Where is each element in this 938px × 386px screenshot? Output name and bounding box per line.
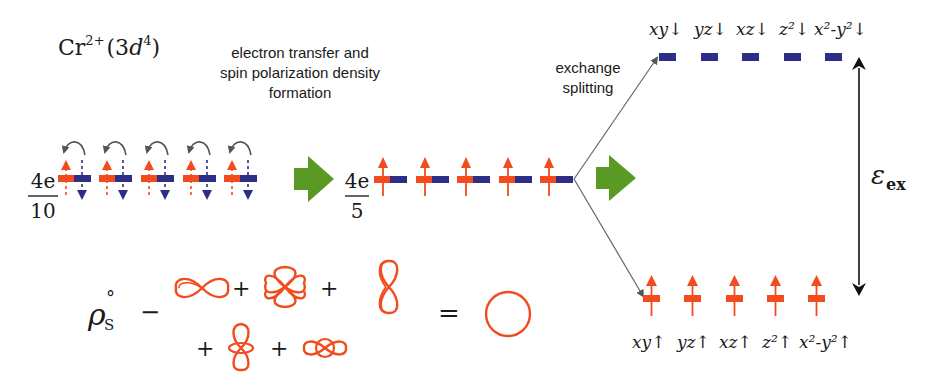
ion-label: Cr2+(3d4) bbox=[58, 33, 160, 60]
rho-superscript: ° bbox=[106, 287, 115, 308]
spin-down-level bbox=[659, 53, 676, 61]
diagram-canvas: Cr2+(3d4) electron transfer and spin pol… bbox=[0, 0, 938, 386]
svg-text:Cr2+(3d4): Cr2+(3d4) bbox=[58, 33, 160, 60]
spherical-density-icon bbox=[486, 292, 530, 336]
spin-up-arrow-icon bbox=[186, 160, 196, 170]
orbital-dx2y2-ring-icon bbox=[304, 339, 346, 357]
spin-up-level bbox=[643, 275, 660, 316]
plus-sign: + bbox=[270, 336, 288, 361]
middle-level-unit bbox=[499, 157, 532, 196]
left-level-unit bbox=[141, 142, 174, 200]
middle-occupancy-fraction: 4e 5 bbox=[345, 169, 370, 223]
spin-up-arrow-icon bbox=[61, 160, 71, 170]
orbital-dz2-icon bbox=[229, 324, 253, 370]
spin-up-arrow-icon bbox=[227, 160, 237, 170]
spin-up-level bbox=[767, 275, 784, 316]
spin-down-arrow-icon bbox=[118, 190, 128, 200]
ion-charge: 2+ bbox=[85, 33, 104, 48]
hopping-arrow-icon bbox=[230, 142, 251, 155]
equals-sign: = bbox=[438, 298, 460, 328]
exchange-energy-arrow bbox=[852, 57, 866, 296]
hopping-arrow-icon bbox=[64, 142, 85, 155]
spin-down-level bbox=[825, 53, 842, 61]
middle-level-unit bbox=[416, 157, 449, 196]
left-level-unit bbox=[58, 142, 91, 200]
split-down-line bbox=[574, 179, 643, 296]
orbital-label: x²-y²↑ bbox=[799, 332, 852, 352]
orbital-label: z²↑ bbox=[761, 332, 792, 352]
spin-up-arrow-icon bbox=[503, 157, 513, 168]
spin-up-labels: xy↑ yz↑ xz↑ z²↑ x²-y²↑ bbox=[632, 332, 852, 352]
spin-up-arrow-icon bbox=[144, 160, 154, 170]
spin-down-arrow-icon bbox=[160, 190, 170, 200]
left-level-unit bbox=[224, 142, 257, 200]
hopping-arrow-icon bbox=[189, 142, 210, 155]
element-symbol: Cr bbox=[58, 35, 86, 60]
orbital-dxy-lobes-icon bbox=[176, 279, 228, 297]
spin-down-arrow-icon bbox=[202, 190, 212, 200]
spin-up-arrow-icon bbox=[770, 275, 781, 286]
orbital-label: xy↓ bbox=[649, 19, 682, 39]
orbital-label: xz↓ bbox=[736, 19, 769, 39]
plus-sign: + bbox=[320, 276, 338, 301]
config-exponent: 4 bbox=[143, 33, 151, 48]
fraction-numerator: 4e bbox=[31, 169, 56, 193]
orbital-label: yz↓ bbox=[693, 19, 727, 39]
spin-up-arrow-icon bbox=[378, 157, 388, 168]
config-open: (3 bbox=[107, 35, 130, 60]
step1-caption: electron transfer and spin polarization … bbox=[220, 44, 381, 101]
left-level-unit bbox=[99, 142, 132, 200]
middle-level-unit bbox=[540, 157, 573, 196]
spin-down-level bbox=[742, 53, 759, 61]
plus-sign: + bbox=[232, 276, 250, 301]
caption-line: formation bbox=[269, 84, 332, 101]
orbital-dumbbell-vertical-icon bbox=[380, 261, 398, 313]
orbital-cloverleaf-icon bbox=[265, 267, 305, 307]
orbital-label: xz↑ bbox=[719, 332, 752, 352]
orbital-label: x²-y²↓ bbox=[814, 19, 867, 39]
exchange-energy-label: ε ex bbox=[871, 160, 906, 194]
spin-down-labels: xy↓ yz↓ xz↓ z²↓ x²-y²↓ bbox=[649, 19, 867, 39]
density-equation: ρ ° S − + + + + = bbox=[87, 261, 530, 370]
orbital-label: xy↑ bbox=[632, 332, 665, 352]
middle-level-unit bbox=[457, 157, 490, 196]
caption-line: electron transfer and bbox=[231, 44, 369, 61]
left-occupancy-fraction: 4e 10 bbox=[28, 169, 58, 223]
spin-down-arrow-icon bbox=[77, 190, 87, 200]
spin-up-arrow-icon bbox=[544, 157, 554, 168]
svg-text:4e: 4e bbox=[31, 169, 56, 193]
middle-levels bbox=[374, 157, 573, 196]
plus-sign: + bbox=[196, 336, 214, 361]
caption-line: exchange bbox=[555, 59, 620, 76]
spin-down-level bbox=[701, 53, 718, 61]
spin-up-arrow-icon bbox=[646, 275, 657, 286]
fraction-denominator: 5 bbox=[351, 199, 364, 223]
spin-up-level bbox=[684, 275, 701, 316]
fraction-numerator: 4e bbox=[345, 169, 370, 193]
spin-down-arrow-icon bbox=[243, 190, 253, 200]
spin-down-levels bbox=[659, 53, 842, 61]
spin-up-level bbox=[726, 275, 743, 316]
config-orbital: d bbox=[129, 35, 143, 60]
spin-up-arrow-icon bbox=[461, 157, 471, 168]
spin-up-levels bbox=[643, 275, 825, 316]
spin-up-arrow-icon bbox=[420, 157, 430, 168]
hopping-arrow-icon bbox=[105, 142, 126, 155]
middle-level-unit bbox=[374, 157, 407, 196]
spin-up-arrow-icon bbox=[687, 275, 698, 286]
caption-line: splitting bbox=[563, 79, 614, 96]
left-level-unit bbox=[183, 142, 216, 200]
spin-up-level bbox=[808, 275, 825, 316]
spin-down-level bbox=[784, 53, 801, 61]
relation-sign: − bbox=[140, 298, 160, 326]
spin-up-arrow-icon bbox=[811, 275, 822, 286]
rho-subscript: S bbox=[104, 316, 114, 334]
caption-line: spin polarization density bbox=[220, 64, 381, 81]
hopping-arrow-icon bbox=[147, 142, 168, 155]
transition-arrow-icon bbox=[294, 156, 334, 202]
spin-up-arrow-icon bbox=[729, 275, 740, 286]
spin-up-arrow-icon bbox=[102, 160, 112, 170]
fraction-denominator: 10 bbox=[30, 199, 55, 223]
config-close: ) bbox=[152, 35, 161, 60]
orbital-label: yz↑ bbox=[676, 332, 710, 352]
